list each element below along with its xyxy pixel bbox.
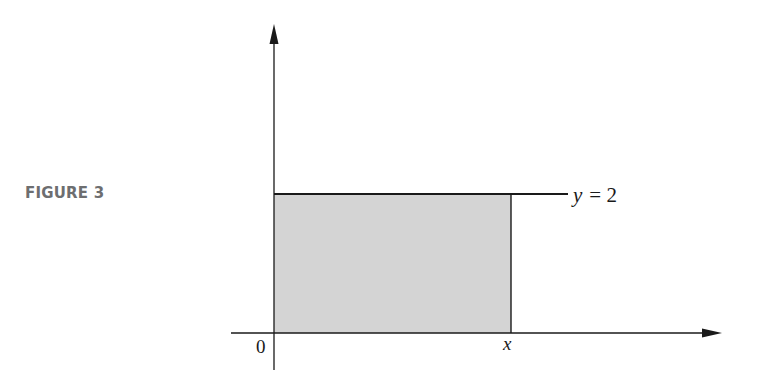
origin-label: 0 [256,336,266,357]
figure-page: FIGURE 3 y= 2 0 x [0,0,764,387]
curve-label: y= 2 [571,183,617,207]
x-label: x [502,333,512,354]
shaded-region [274,194,511,333]
x-axis-arrow-icon [702,329,722,338]
y-axis-arrow-icon [270,24,279,44]
graph: y= 2 0 x [0,0,764,387]
